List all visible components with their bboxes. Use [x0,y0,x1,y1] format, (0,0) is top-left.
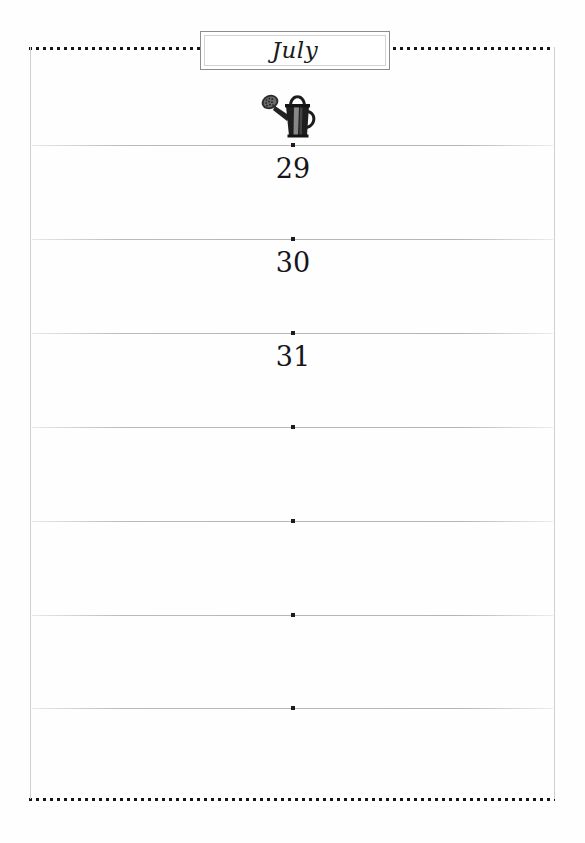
ruled-line-center-dot [291,331,295,335]
ruled-line-center-dot [291,237,295,241]
ruled-line-center-dot [291,143,295,147]
watering-can-icon [260,86,322,142]
ruled-line-center-dot [291,613,295,617]
calendar-page: July [0,0,585,843]
ruled-line [32,239,553,240]
dotted-border-bottom [29,797,555,801]
ruled-line [32,427,553,428]
ruled-line [32,521,553,522]
border-rule-left [30,47,31,799]
day-number[interactable]: 31 [253,343,333,370]
day-number[interactable]: 30 [253,249,333,276]
month-title-plate: July [200,31,390,70]
day-number[interactable]: 29 [253,155,333,182]
ruled-line [32,615,553,616]
ruled-line-center-dot [291,519,295,523]
ruled-line [32,145,553,146]
ruled-line-center-dot [291,706,295,710]
page-title: July [201,39,389,62]
ruled-line [32,708,553,709]
ruled-line-center-dot [291,425,295,429]
ruled-line [32,333,553,334]
border-rule-right [554,47,555,799]
